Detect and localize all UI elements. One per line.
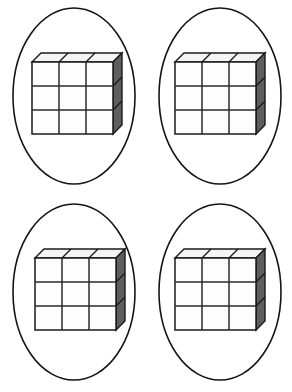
cube-array-top-face <box>35 249 125 258</box>
cube-array-right-face <box>256 53 265 134</box>
cube-group-bottom-right[interactable] <box>146 196 292 392</box>
cube-array <box>175 249 265 330</box>
cube-array-right-face <box>113 53 122 134</box>
cube-group-top-left[interactable] <box>0 0 146 196</box>
cube-group-top-right[interactable] <box>146 0 292 196</box>
cube-array-front-face <box>32 62 113 134</box>
cube-group-drawing <box>146 0 292 196</box>
cube-array-worksheet <box>0 0 292 392</box>
cube-array-front-face <box>175 62 256 134</box>
cube-group-bottom-left[interactable] <box>0 196 146 392</box>
cube-array-front-face <box>175 258 256 330</box>
cube-array <box>175 53 265 134</box>
cube-group-drawing <box>146 196 292 392</box>
cube-array-top-face <box>32 53 122 62</box>
cube-array-right-face <box>256 249 265 330</box>
cube-array <box>35 249 125 330</box>
cube-array-front-face <box>35 258 116 330</box>
cube-array-top-face <box>175 249 265 258</box>
cube-group-drawing <box>0 0 146 196</box>
cube-array-right-face <box>116 249 125 330</box>
cube-array <box>32 53 122 134</box>
cube-array-top-face <box>175 53 265 62</box>
cube-group-drawing <box>0 196 146 392</box>
